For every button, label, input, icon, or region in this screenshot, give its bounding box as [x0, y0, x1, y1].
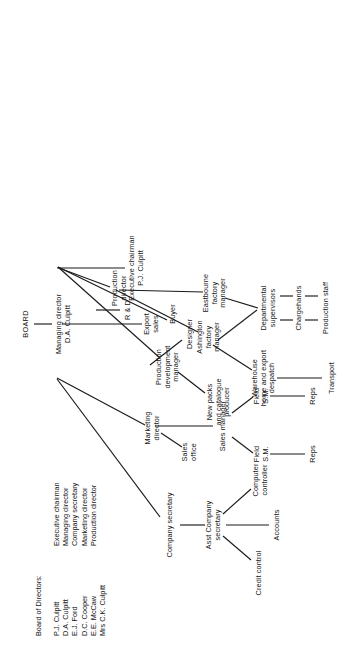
node-chargehands: Chargehands: [295, 286, 304, 331]
node-asst-company-secretary: Asst Company secretary: [205, 501, 222, 550]
node-computer-controller: Computer controller: [252, 464, 269, 497]
node-transport: Transport: [328, 362, 337, 394]
node-company-secretary: Company secretary: [166, 493, 175, 558]
node-designer: Designer: [186, 319, 195, 349]
node-departmental-supervisors: Departmental supervisors: [260, 285, 277, 330]
node-marketing-director: Marketing director: [144, 412, 161, 445]
edge-eastbourne-dept: [225, 298, 258, 308]
board-of-directors-heading: Board of Directors:: [34, 575, 43, 636]
edge-md-marketing: [57, 378, 145, 425]
node-field-sm-1: Field S.M.: [253, 446, 270, 462]
node-sales-office: Sales office: [181, 443, 198, 462]
edge-pdm-newpacks: [178, 372, 205, 393]
edge-asst-computer: [223, 489, 251, 514]
board-of-directors-roles: Executive chairman Managing director Com…: [52, 482, 98, 546]
node-reps-1: Reps: [309, 445, 318, 462]
node-reps-2: Reps: [309, 387, 318, 404]
node-credit-control: Credit control: [255, 551, 264, 596]
node-production-director: Production director: [111, 270, 128, 306]
edge-md-pd: [59, 268, 110, 287]
node-export-sales: Export sales: [143, 313, 160, 335]
node-sales-manager: Sales manager: [219, 401, 228, 451]
edge-asst-credit: [223, 536, 251, 560]
board-of-directors-names: P.J. Culpitt D.A. Culpitt E.J. Ford D.C.…: [52, 585, 107, 636]
edge-salesmanager-fieldsm2: [232, 397, 253, 413]
node-field-sm-2: Field S.M.: [253, 388, 270, 404]
node-buyer: Buyer: [169, 304, 178, 324]
node-eastbourne-factory-manager: Eastbourne factory manager: [202, 274, 228, 312]
node-accounts: Accounts: [273, 510, 282, 541]
edge-salesmanager-fieldsm1: [232, 437, 253, 453]
node-production-staff: Production staff: [322, 282, 331, 334]
edge-marketing-salesoffice: [161, 433, 182, 447]
edge-ashington-dept: [218, 310, 257, 340]
node-ashington-factory-manager: Ashington factory manager: [196, 320, 222, 353]
node-managing-director: Managing director D.A. Culpitt: [55, 294, 72, 354]
node-executive-chairman: Executive chairman P.J. Culpitt: [128, 235, 145, 300]
org-chart-canvas: BOARD Managing director D.A. Culpitt Exe…: [0, 0, 364, 650]
node-board: BOARD: [22, 310, 31, 337]
node-production-development-manager: Production development manager: [155, 346, 181, 389]
